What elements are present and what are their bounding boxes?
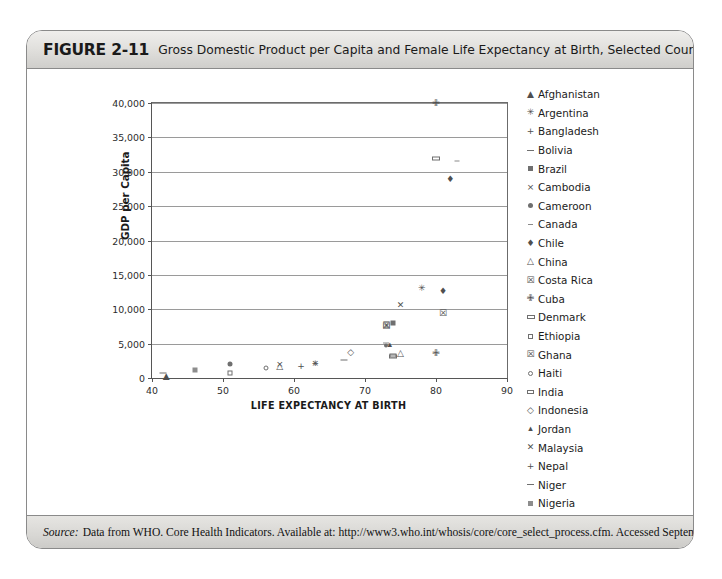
y-tick-label: 30,000 — [112, 166, 145, 177]
plus-thin-icon: + — [523, 462, 538, 471]
legend-item: +Bangladesh — [523, 122, 694, 141]
data-point — [192, 365, 197, 374]
y-tick-mark — [148, 206, 152, 207]
y-tick-label: 5,000 — [118, 338, 145, 349]
data-point — [390, 351, 397, 360]
y-axis-title: GDP per Capita — [119, 152, 131, 240]
legend-label: Ghana — [538, 349, 572, 361]
source-text: Data from WHO. Core Health Indicators. A… — [83, 526, 694, 539]
cross-open-icon: ✙ — [523, 294, 538, 303]
y-tick-mark — [148, 275, 152, 276]
x-tick-mark — [223, 378, 224, 382]
x-tick-label: 40 — [146, 385, 158, 396]
y-tick-mark — [148, 309, 152, 310]
x-tick-mark — [436, 378, 437, 382]
legend-label: Cuba — [538, 293, 565, 305]
data-point — [228, 369, 233, 378]
gridline — [152, 241, 507, 242]
figure-caption: Gross Domestic Product per Capita and Fe… — [158, 43, 694, 57]
legend-item: ✙Cuba — [523, 290, 694, 309]
y-tick-label: 35,000 — [112, 132, 145, 143]
data-point: ♦ — [439, 287, 447, 296]
legend-label: Costa Rica — [538, 274, 593, 286]
x-tick-label: 70 — [359, 385, 371, 396]
data-point — [455, 157, 460, 166]
legend-label: Niger — [538, 479, 566, 491]
gridline — [152, 309, 507, 310]
data-point — [340, 356, 347, 365]
legend-item: Brazil — [523, 159, 694, 178]
legend-label: Cameroon — [538, 200, 591, 212]
chart-legend: ▲Afghanistan✳Argentina+BangladeshBolivia… — [523, 85, 694, 549]
legend-label: Malaysia — [538, 442, 583, 454]
data-point: ☒ — [382, 321, 390, 330]
legend-item: Ethiopia — [523, 327, 694, 346]
legend-item: ◇Indonesia — [523, 401, 694, 420]
rect-open-small-icon — [523, 387, 538, 396]
gridline — [152, 206, 507, 207]
diamond-open-icon: ◇ — [523, 406, 538, 415]
legend-item: ♦Chile — [523, 234, 694, 253]
data-point — [391, 319, 396, 328]
data-point: ☒ — [382, 322, 390, 331]
y-tick-label: 25,000 — [112, 201, 145, 212]
figure-frame: FIGURE 2-11 Gross Domestic Product per C… — [26, 30, 694, 549]
y-tick-mark — [148, 172, 152, 173]
y-tick-mark — [148, 241, 152, 242]
y-tick-label: 40,000 — [112, 98, 145, 109]
data-point: + — [312, 358, 320, 367]
legend-label: Haiti — [538, 367, 562, 379]
square-grey-icon — [523, 499, 538, 508]
data-point: ◇ — [347, 347, 354, 356]
y-tick-label: 10,000 — [112, 304, 145, 315]
legend-label: Ethiopia — [538, 330, 580, 342]
gridline — [152, 137, 507, 138]
data-point: × — [312, 358, 320, 367]
y-tick-label: 15,000 — [112, 269, 145, 280]
hourglass-icon: ☒ — [523, 276, 538, 285]
legend-label: Cambodia — [538, 181, 591, 193]
data-point: ♦ — [446, 174, 454, 183]
data-point: ✳ — [418, 283, 426, 292]
legend-item: Niger — [523, 475, 694, 494]
x-axis-title: LIFE EXPECTANCY AT BIRTH — [151, 400, 506, 411]
data-point — [159, 368, 166, 377]
y-tick-label: 20,000 — [112, 235, 145, 246]
legend-item: ▴Jordan — [523, 420, 694, 439]
figure-body: GDP per Capita LIFE EXPECTANCY AT BIRTH … — [27, 69, 693, 517]
scatter-chart: GDP per Capita LIFE EXPECTANCY AT BIRTH … — [27, 69, 517, 517]
legend-label: Indonesia — [538, 404, 588, 416]
x-box-icon: ☒ — [523, 350, 538, 359]
legend-label: Denmark — [538, 311, 586, 323]
y-tick-mark — [148, 137, 152, 138]
data-point — [432, 154, 440, 163]
data-point: △ — [276, 361, 283, 370]
data-point — [263, 363, 268, 372]
y-tick-label: 0 — [139, 373, 145, 384]
data-point: + — [297, 361, 305, 370]
square-filled-icon — [523, 164, 538, 173]
data-point — [228, 360, 233, 369]
data-point: × — [276, 360, 284, 369]
x-light-icon: ✕ — [523, 443, 538, 452]
legend-label: Jordan — [538, 423, 571, 435]
legend-label: Nigeria — [538, 497, 575, 509]
x-bold-icon: ✳ — [523, 108, 538, 117]
gridline — [152, 344, 507, 345]
legend-item: Denmark — [523, 308, 694, 327]
legend-item: ✳Argentina — [523, 104, 694, 123]
x-tick-label: 50 — [217, 385, 229, 396]
x-tick-mark — [294, 378, 295, 382]
legend-item: ×Cambodia — [523, 178, 694, 197]
gridline — [152, 172, 507, 173]
legend-item: India — [523, 383, 694, 402]
circle-filled-icon — [523, 201, 538, 210]
y-tick-mark — [148, 344, 152, 345]
legend-item: Canada — [523, 215, 694, 234]
legend-item: ☒Costa Rica — [523, 271, 694, 290]
x-tick-mark — [365, 378, 366, 382]
figure-header: FIGURE 2-11 Gross Domestic Product per C… — [27, 31, 693, 69]
x-tick-mark — [507, 378, 508, 382]
legend-item: Bolivia — [523, 141, 694, 160]
legend-label: Chile — [538, 237, 564, 249]
